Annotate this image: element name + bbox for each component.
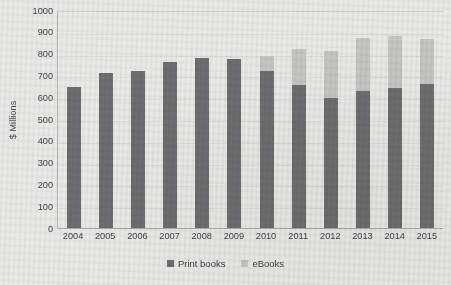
bar-group[interactable]: [67, 12, 81, 228]
legend-entry[interactable]: Print books: [167, 258, 226, 269]
y-axis-tick-label: 300: [38, 158, 53, 168]
legend-label: eBooks: [252, 258, 284, 269]
bar-segment-print-books[interactable]: [260, 71, 274, 228]
bar-group[interactable]: [324, 12, 338, 228]
y-axis-title: $ Millions: [2, 0, 24, 240]
bar-segment-print-books[interactable]: [388, 88, 402, 228]
y-axis-tick-label: 400: [38, 136, 53, 146]
bar-segment-print-books[interactable]: [420, 84, 434, 228]
bar-segment-print-books[interactable]: [356, 91, 370, 228]
bar-segment-print-books[interactable]: [99, 73, 113, 228]
bar-group[interactable]: [163, 12, 177, 228]
bar-segment-ebooks[interactable]: [388, 36, 402, 89]
bar-segment-print-books[interactable]: [324, 98, 338, 228]
plot-area: [57, 11, 443, 229]
bar-segment-print-books[interactable]: [131, 71, 145, 228]
bar-segment-print-books[interactable]: [292, 85, 306, 228]
bar-segment-print-books[interactable]: [195, 58, 209, 228]
bar-group[interactable]: [99, 12, 113, 228]
print-books-swatch: [167, 260, 174, 267]
y-axis-tick-label: 700: [38, 71, 53, 81]
bar-segment-ebooks[interactable]: [356, 38, 370, 91]
bar-group[interactable]: [420, 12, 434, 228]
y-axis-tick-label: 200: [38, 180, 53, 190]
legend-entry[interactable]: eBooks: [241, 258, 284, 269]
bar-segment-print-books[interactable]: [227, 59, 241, 228]
bar-segment-ebooks[interactable]: [292, 49, 306, 84]
y-axis-title-label: $ Millions: [8, 101, 18, 140]
bar-group[interactable]: [388, 12, 402, 228]
y-axis-tick-label: 500: [38, 115, 53, 125]
bar-group[interactable]: [292, 12, 306, 228]
chart-legend: Print bookseBooks: [0, 258, 451, 269]
y-axis-tick-label: 0: [48, 224, 53, 234]
bar-group[interactable]: [260, 12, 274, 228]
y-axis-tick-label: 100: [38, 202, 53, 212]
y-axis-tick-labels: 10009008007006005004003002001000: [22, 10, 56, 229]
bars-layer: [58, 12, 443, 228]
bar-group[interactable]: [195, 12, 209, 228]
y-axis-tick-label: 900: [38, 27, 53, 37]
bar-group[interactable]: [356, 12, 370, 228]
bar-segment-ebooks[interactable]: [324, 51, 338, 97]
y-axis-tick-label: 600: [38, 93, 53, 103]
legend-label: Print books: [178, 258, 226, 269]
bar-segment-ebooks[interactable]: [420, 39, 434, 84]
y-axis-tick-label: 800: [38, 49, 53, 59]
y-axis-tick-label: 1000: [33, 6, 53, 16]
bar-segment-ebooks[interactable]: [260, 56, 274, 72]
stacked-bar-chart: $ Millions 10009008007006005004003002001…: [0, 0, 451, 285]
bar-group[interactable]: [131, 12, 145, 228]
bar-group[interactable]: [227, 12, 241, 228]
bar-segment-print-books[interactable]: [163, 62, 177, 228]
x-axis-tick-labels: 2004200520062007200820092010201120122013…: [57, 231, 443, 247]
bar-segment-print-books[interactable]: [67, 87, 81, 228]
ebooks-swatch: [241, 260, 248, 267]
